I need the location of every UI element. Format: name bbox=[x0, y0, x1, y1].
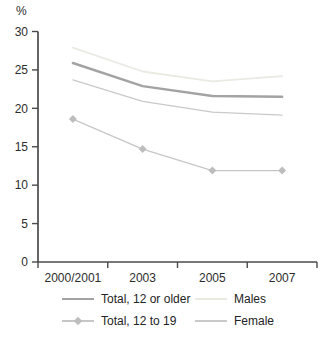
plot-area: 0510152025302000/2001200320052007 bbox=[0, 0, 328, 290]
y-tick-label: 30 bbox=[15, 25, 29, 39]
legend-swatch-total-12-to-19 bbox=[62, 313, 94, 329]
series-marker-diamond bbox=[139, 145, 147, 153]
legend-item-total-12-to-19: Total, 12 to 19 bbox=[62, 313, 195, 329]
series-line-total-12-to-19 bbox=[73, 119, 282, 171]
y-tick-label: 20 bbox=[15, 102, 29, 116]
y-tick-label: 25 bbox=[15, 63, 29, 77]
legend-label-total-12-to-19: Total, 12 to 19 bbox=[101, 314, 176, 328]
legend-item-males: Males bbox=[195, 291, 302, 307]
legend: Total, 12 or older Males Total, 12 to 19… bbox=[62, 291, 302, 329]
y-tick-label: 10 bbox=[15, 178, 29, 192]
x-tick-label: 2000/2001 bbox=[45, 271, 102, 285]
legend-label-total-12-or-older: Total, 12 or older bbox=[101, 292, 190, 306]
legend-swatch-total-12-or-older bbox=[62, 291, 94, 307]
y-tick-label: 0 bbox=[21, 255, 28, 269]
series-line-males bbox=[73, 48, 282, 82]
y-tick-label: 15 bbox=[15, 140, 29, 154]
x-tick-label: 2005 bbox=[199, 271, 226, 285]
legend-label-female: Female bbox=[234, 314, 274, 328]
y-tick-label: 5 bbox=[21, 217, 28, 231]
x-tick-label: 2007 bbox=[269, 271, 296, 285]
series-marker-diamond bbox=[69, 115, 77, 123]
legend-item-female: Female bbox=[195, 313, 302, 329]
legend-item-total-12-or-older: Total, 12 or older bbox=[62, 291, 195, 307]
series-marker-diamond bbox=[208, 167, 216, 175]
x-tick-label: 2003 bbox=[129, 271, 156, 285]
legend-label-males: Males bbox=[234, 292, 266, 306]
series-marker-diamond bbox=[278, 167, 286, 175]
series-line-total-12-or-older bbox=[73, 63, 282, 97]
smoking-rate-line-chart: % 0510152025302000/2001200320052007 Tota… bbox=[0, 0, 328, 339]
legend-swatch-males bbox=[195, 291, 227, 307]
legend-swatch-female bbox=[195, 313, 227, 329]
